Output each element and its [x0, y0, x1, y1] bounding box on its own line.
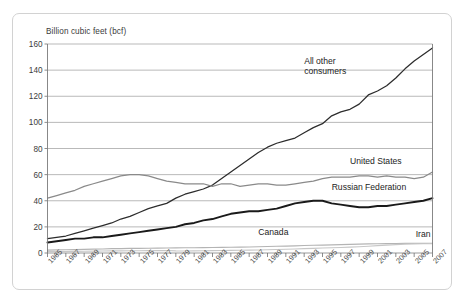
- series-label-united-states: United States: [350, 157, 402, 167]
- series-label-russian-federation: Russian Federation: [332, 183, 407, 193]
- y-tick-label: 60: [3, 170, 43, 179]
- y-tick-label: 80: [3, 144, 43, 153]
- chart-figure: Billion cubic feet (bcf) 020406080100120…: [0, 0, 464, 300]
- series-label-line2: consumers: [304, 67, 346, 77]
- series-label-iran: Iran: [416, 230, 431, 240]
- y-tick-label: 120: [3, 92, 43, 101]
- y-tick-label: 20: [3, 222, 43, 231]
- y-tick-label: 40: [3, 196, 43, 205]
- plot-area: 020406080100120140160 196519671969197119…: [0, 0, 464, 300]
- series-line: [48, 198, 433, 242]
- series-label-canada: Canada: [258, 228, 288, 238]
- y-tick-label: 100: [3, 118, 43, 127]
- series-lines: [48, 48, 433, 252]
- y-tick-label: 0: [3, 249, 43, 258]
- series-label-all-other-consumers: All otherconsumers: [304, 57, 346, 76]
- y-tick-label: 140: [3, 66, 43, 75]
- y-tick-label: 160: [3, 40, 43, 49]
- gridlines: [48, 44, 433, 253]
- series-line: [48, 48, 433, 239]
